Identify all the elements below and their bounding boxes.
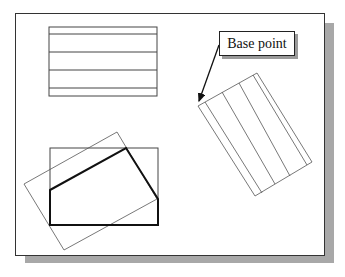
arrow-icon <box>199 45 219 101</box>
base-point-label: Base point <box>219 31 295 56</box>
top-rectangle <box>49 27 157 96</box>
bold-polygon <box>50 148 158 225</box>
rotated-rectangle-right <box>198 73 312 196</box>
rotated-rectangle-bottom <box>24 132 157 250</box>
